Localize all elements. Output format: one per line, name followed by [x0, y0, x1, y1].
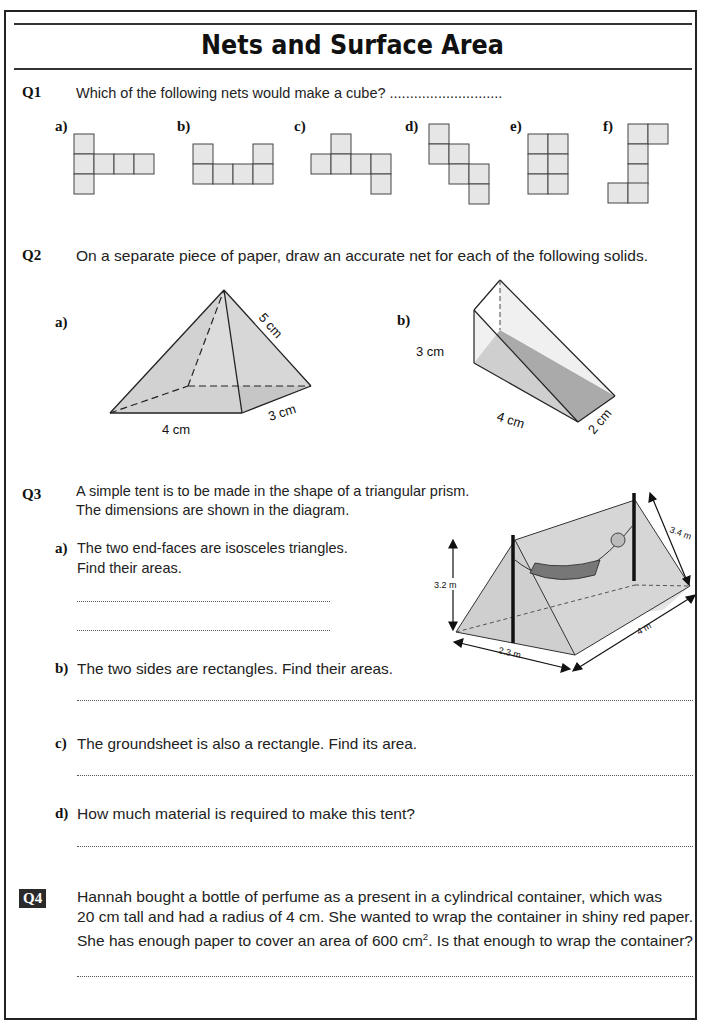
prism-height-label: 3 cm: [416, 344, 444, 359]
tent-base-label: 2.3 m: [498, 645, 522, 660]
tent-height-label: 3.2 m: [434, 580, 457, 590]
q4-line2: 20 cm tall and had a radius of 4 cm. She…: [77, 907, 693, 927]
q3-a-answer-line-1[interactable]: [77, 601, 330, 602]
triangular-prism-diagram: 3 cm 4 cm 2 cm: [460, 270, 660, 450]
q3-intro-line2: The dimensions are shown in the diagram.: [76, 500, 349, 520]
q4-line3: She has enough paper to cover an area of…: [77, 927, 693, 951]
q3-part-a-label: a): [55, 540, 68, 557]
prism-length-label: 4 cm: [495, 409, 526, 432]
q3-intro-line1: A simple tent is to be made in the shape…: [76, 481, 469, 501]
q3-part-c-text: The groundsheet is also a rectangle. Fin…: [77, 734, 417, 754]
net-c: [311, 134, 391, 194]
q3-part-c-label: c): [55, 735, 67, 752]
q3-part-a-line2: Find their areas.: [77, 558, 182, 578]
q3-b-answer-line[interactable]: [77, 700, 693, 701]
net-e: [528, 134, 568, 194]
question-number-q4: Q4: [19, 889, 46, 908]
q2-prompt: On a separate piece of paper, draw an ac…: [76, 246, 648, 266]
pyramid-base-length-label: 4 cm: [162, 422, 190, 437]
q4-line3-post: . Is that enough to wrap the container?: [428, 933, 693, 949]
tent-slant-label: 3.4 m: [668, 524, 693, 541]
q3-c-answer-line[interactable]: [77, 775, 693, 776]
pyramid-diagram: 5 cm 4 cm 3 cm: [100, 280, 400, 450]
net-a: [74, 134, 154, 194]
net-f: [608, 124, 668, 203]
question-number-q2: Q2: [22, 247, 41, 264]
net-b: [193, 144, 273, 184]
q3-part-b-text: The two sides are rectangles. Find their…: [77, 659, 393, 679]
q3-a-answer-line-2[interactable]: [77, 630, 330, 631]
net-d: [429, 124, 489, 204]
q3-part-b-label: b): [55, 660, 68, 677]
q3-part-d-label: d): [55, 805, 68, 822]
q2-part-a-label: a): [55, 314, 68, 331]
tent-diagram: 3.2 m 3.4 m 2.3 m 4 m: [420, 485, 705, 685]
q4-answer-line[interactable]: [77, 976, 693, 977]
q3-d-answer-line[interactable]: [77, 846, 693, 847]
question-number-q3: Q3: [22, 486, 41, 503]
q3-part-d-text: How much material is required to make th…: [77, 804, 415, 824]
q4-line3-pre: She has enough paper to cover an area of…: [77, 933, 423, 949]
q3-part-a-line1: The two end-faces are isosceles triangle…: [77, 538, 348, 558]
pyramid-base-width-label: 3 cm: [266, 401, 297, 424]
hammock-person-head: [611, 533, 625, 547]
q4-line1: Hannah bought a bottle of perfume as a p…: [77, 887, 662, 907]
cube-nets-figure: [0, 0, 705, 220]
